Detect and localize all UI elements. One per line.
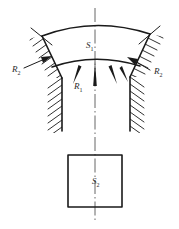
label-right-force: R2 (153, 66, 163, 78)
label-square-region-subscript: 2 (97, 182, 100, 188)
svg-text:S1: S1 (86, 40, 94, 52)
outer-arc (42, 25, 150, 36)
left-force-arrow (24, 56, 52, 68)
label-right-force-subscript: 2 (160, 72, 163, 78)
label-left-force: R2 (11, 64, 21, 76)
label-arc-region-subscript: 1 (91, 46, 94, 52)
label-center-force: R1 (73, 81, 83, 93)
left-channel-wall (48, 78, 62, 137)
svg-text:R1: R1 (73, 81, 83, 93)
label-center-force-subscript: 1 (80, 87, 83, 93)
right-boundary-edge (130, 34, 150, 77)
inner-arc (52, 59, 140, 67)
svg-text:R2: R2 (11, 64, 21, 76)
svg-text:R2: R2 (153, 66, 163, 78)
flange-leader-lines (31, 26, 160, 45)
right-channel-wall (130, 77, 144, 136)
label-left-force-subscript: 2 (18, 70, 21, 76)
center-force-arrows (73, 61, 128, 86)
label-arc-region: S1 (86, 40, 94, 52)
diagram-canvas: S1 R2 R2 R1 S2 (0, 0, 179, 229)
technical-diagram: S1 R2 R2 R1 S2 (0, 0, 179, 229)
svg-text:S2: S2 (92, 176, 100, 188)
label-square-region: S2 (92, 176, 100, 188)
